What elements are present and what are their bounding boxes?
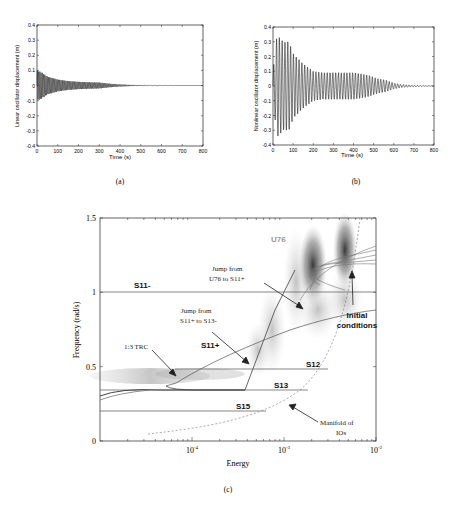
x-tick-label: 600 bbox=[157, 148, 166, 154]
x-tick-label: 200 bbox=[74, 148, 83, 154]
y-tick-label: 0.2 bbox=[28, 52, 35, 58]
plot-c: 1.510.50 10-410-310-2 bbox=[72, 212, 383, 468]
x-tick-label: 700 bbox=[178, 148, 187, 154]
label-trc: 1:3 TRC bbox=[124, 343, 149, 351]
x-axis-label-a: Time (s) bbox=[109, 154, 131, 160]
x-tick-label: 700 bbox=[410, 147, 419, 153]
label-U76: U76 bbox=[271, 235, 286, 244]
label-manifold-1: Manifold of bbox=[320, 419, 354, 427]
y-tick-label: 0 bbox=[92, 437, 96, 446]
x-axis-label-b: Time (s) bbox=[341, 152, 363, 158]
label-manifold-2: IOs bbox=[336, 429, 346, 437]
x-tick-label: 200 bbox=[309, 147, 318, 153]
x-tick-label: 100 bbox=[54, 148, 63, 154]
y-tick-label: -0.2 bbox=[262, 113, 271, 119]
x-tick-label: 0 bbox=[36, 148, 39, 154]
y-tick-label: 0 bbox=[32, 83, 35, 89]
y-tick-label: -0.3 bbox=[26, 128, 35, 134]
x-tick-label: 100 bbox=[289, 147, 298, 153]
y-axis-label-a: Linear oscillator displacement (m) bbox=[14, 45, 20, 127]
y-tick-label: 0.5 bbox=[86, 363, 96, 372]
y-axis-label-b: Nonlinear oscillator displacement (m) bbox=[253, 41, 259, 132]
label-S15: S15 bbox=[236, 402, 251, 411]
label-S13: S13 bbox=[274, 381, 289, 390]
y-tick-label: 0.1 bbox=[28, 67, 35, 73]
x-tick-label: 500 bbox=[137, 148, 146, 154]
y-tick-label: 1.5 bbox=[86, 214, 96, 223]
label-S11-plus: S11+ bbox=[201, 341, 220, 350]
y-tick-label: -0.3 bbox=[262, 127, 271, 133]
plot-b: 0.40.30.20.10-0.1-0.2-0.3-0.4 0100200300… bbox=[253, 24, 438, 158]
label-S11-minus: S11- bbox=[134, 281, 151, 290]
caption-c: (c) bbox=[224, 485, 233, 494]
y-axis-label-c: Frequency (rad/s) bbox=[72, 301, 81, 358]
y-tick-label: 0.4 bbox=[28, 22, 35, 28]
x-tick-label: 10-2 bbox=[370, 445, 383, 455]
x-axis-label-c: Energy bbox=[227, 459, 250, 468]
label-jump1-line1: Jump from bbox=[212, 265, 243, 273]
x-tick-label: 300 bbox=[95, 148, 104, 154]
caption-a: (a) bbox=[116, 177, 125, 186]
y-tick-label: 0.2 bbox=[264, 54, 271, 60]
label-jump2-line1: Jump from bbox=[181, 307, 212, 315]
y-tick-label: 0.3 bbox=[28, 37, 35, 43]
y-tick-label: -0.1 bbox=[26, 98, 35, 104]
y-tick-label: 0.4 bbox=[264, 24, 271, 30]
plot-a: 0.40.30.20.10-0.1-0.2-0.3-0.4 0100200300… bbox=[14, 22, 207, 160]
label-initial-2: conditions bbox=[337, 321, 378, 330]
x-tick-label: 10-4 bbox=[186, 445, 199, 455]
x-tick-label: 300 bbox=[329, 147, 338, 153]
y-tick-label: 0.3 bbox=[264, 39, 271, 45]
label-initial-1: Initial bbox=[347, 311, 368, 320]
trajectory-left bbox=[100, 390, 245, 396]
y-tick-label: -0.4 bbox=[26, 143, 35, 149]
label-jump1-line2: U76 to S11+ bbox=[209, 275, 245, 283]
x-tick-label: 10-3 bbox=[278, 445, 291, 455]
x-tick-label: 800 bbox=[199, 148, 208, 154]
figure: 0.40.30.20.10-0.1-0.2-0.3-0.4 0100200300… bbox=[0, 0, 456, 506]
y-tick-label: -0.1 bbox=[262, 98, 271, 104]
x-tick-label: 800 bbox=[430, 147, 439, 153]
label-S12: S12 bbox=[306, 360, 321, 369]
wavelet-shading bbox=[90, 212, 363, 384]
y-tick-label: 0 bbox=[268, 83, 271, 89]
trajectory-left2 bbox=[100, 390, 150, 400]
caption-b: (b) bbox=[352, 177, 361, 186]
y-tick-label: 1 bbox=[92, 288, 96, 297]
x-tick-label: 500 bbox=[369, 147, 378, 153]
y-tick-label: -0.2 bbox=[26, 113, 35, 119]
y-tick-label: 0.1 bbox=[264, 68, 271, 74]
x-tick-label: 600 bbox=[390, 147, 399, 153]
label-jump2-line2: S11+ to S13- bbox=[180, 317, 217, 325]
x-tick-label: 0 bbox=[272, 147, 275, 153]
y-tick-label: -0.4 bbox=[262, 142, 271, 148]
